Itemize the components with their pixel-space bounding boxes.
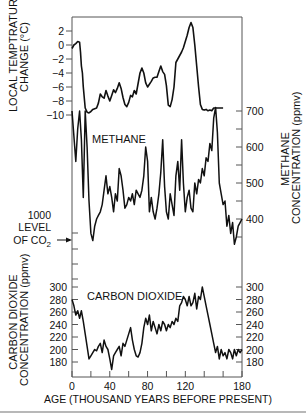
co2-tick-label-left: 200	[49, 344, 67, 356]
x-tick-label: 120	[177, 380, 195, 392]
co2-level-line3: OF CO2	[13, 234, 51, 249]
methane-ylabel-line2: CONCENTRATION (ppmv)	[291, 94, 302, 224]
temp-tick-label: −2	[52, 53, 64, 65]
co2-tick-label-left: 240	[49, 319, 67, 331]
co2-level-line1: 1000	[28, 209, 52, 221]
x-axis-title: AGE (THOUSAND YEARS BEFORE PRESENT)	[44, 393, 272, 405]
x-tick-label: 80	[142, 380, 154, 392]
temp-tick-label: 0	[58, 39, 64, 51]
co2-level-arrow	[57, 238, 72, 243]
co2-tick-label-right: 220	[246, 331, 264, 343]
methane-tick-label: 700	[246, 105, 264, 117]
co2-tick-label-right: 300	[246, 281, 264, 293]
co2-tick-label-left: 300	[49, 281, 67, 293]
methane-ylabel: METHANE CONCENTRATION (ppmv)	[280, 94, 302, 224]
methane-line	[72, 107, 242, 244]
co2-tick-label-left: 180	[49, 356, 67, 368]
temperature-axis: 20−2−4−6−8−10	[46, 17, 72, 121]
methane-tick-label: 500	[246, 177, 264, 189]
co2-level-line2: LEVEL	[18, 221, 51, 233]
x-axis: 04080120180	[69, 371, 251, 392]
co2-tick-label-right: 280	[246, 294, 264, 306]
x-tick-label: 40	[104, 380, 116, 392]
bottom-divider	[0, 411, 306, 413]
methane-tick-label: 600	[246, 141, 264, 153]
temp-tick-label: 2	[58, 25, 64, 37]
temperature-line	[72, 23, 223, 113]
co2-ylabel-line2: CONCENTRATION (ppmv)	[19, 258, 30, 386]
co2-tick-label-left: 280	[49, 294, 67, 306]
methane-axis: 400500600700	[236, 105, 264, 237]
temp-tick-label: −6	[52, 81, 64, 93]
temp-tick-label: −4	[52, 67, 64, 79]
co2-tick-label-right: 200	[246, 344, 264, 356]
temp-tick-label: −10	[46, 109, 64, 121]
temp-ylabel: LOCAL TEMPTRATURE CHANGE (°C)	[8, 2, 30, 112]
methane-tick-label: 400	[246, 213, 264, 225]
temp-ylabel-line2: CHANGE (°C)	[19, 2, 30, 112]
co2-ylabel: CARBON DIOXIDE CONCENTRATION (ppmv)	[8, 258, 30, 386]
methane-panel-label: METHANE	[92, 133, 146, 145]
x-tick-label: 0	[69, 380, 75, 392]
co2-tick-label-left: 220	[49, 331, 67, 343]
co2-tick-label-left: 260	[49, 306, 67, 318]
co2-panel-label: CARBON DIOXIDE	[87, 290, 182, 302]
plot-frame	[72, 17, 242, 377]
co2-tick-label-right: 180	[246, 356, 264, 368]
co2-tick-label-right: 260	[246, 306, 264, 318]
climate-chart: 20−2−4−6−8−10 400500600700 1801802002002…	[0, 0, 306, 415]
temp-tick-label: −8	[52, 95, 64, 107]
left-axis-extra-ticks	[72, 233, 78, 279]
x-tick-label: 180	[233, 380, 251, 392]
co2-tick-label-right: 240	[246, 319, 264, 331]
